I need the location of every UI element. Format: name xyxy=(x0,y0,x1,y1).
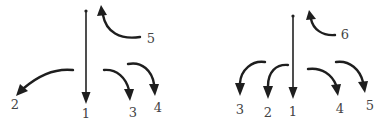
arrow-5-right xyxy=(336,62,368,93)
arrow-5-left xyxy=(97,5,140,38)
label-1-left: 1 xyxy=(82,106,90,121)
label-2-right: 2 xyxy=(264,105,272,120)
arrow-4-right xyxy=(308,69,341,96)
label-6-right: 6 xyxy=(341,27,349,42)
arrow-2-right xyxy=(263,65,288,99)
arrow-2-left xyxy=(16,70,73,96)
label-1-right: 1 xyxy=(289,104,297,119)
arrow-3-right xyxy=(235,62,265,96)
diagram-canvas: 1 2 3 4 5 1 2 xyxy=(0,0,385,125)
label-5-right: 5 xyxy=(366,98,374,113)
left-diagram: 1 2 3 4 5 xyxy=(11,5,162,121)
arrow-1-right xyxy=(289,14,298,99)
label-4-left: 4 xyxy=(154,100,162,115)
label-3-left: 3 xyxy=(129,105,137,120)
right-diagram: 1 2 3 4 5 6 xyxy=(235,10,374,120)
arrow-1-left xyxy=(82,9,91,104)
label-4-right: 4 xyxy=(336,101,344,116)
label-3-right: 3 xyxy=(236,102,244,117)
label-5-left: 5 xyxy=(147,31,155,46)
arrow-6-right xyxy=(306,10,335,35)
arrow-3-left xyxy=(104,70,134,101)
label-2-left: 2 xyxy=(11,97,19,112)
